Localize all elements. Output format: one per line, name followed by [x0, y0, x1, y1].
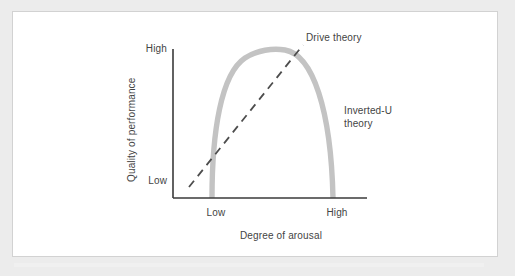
chart-area: High Low Low High Degree of arousal Qual… — [13, 12, 499, 258]
annotation-drive-theory: Drive theory — [306, 32, 362, 44]
screenshot-root: High Low Low High Degree of arousal Qual… — [0, 0, 515, 276]
panel-bottom-edge-artifact — [14, 263, 484, 267]
figure-panel: High Low Low High Degree of arousal Qual… — [12, 11, 498, 257]
annotation-inverted-u-line1: Inverted-U — [344, 104, 392, 117]
x-axis-tick-high: High — [315, 207, 359, 219]
y-axis-title: Quality of performance — [126, 78, 137, 182]
drive-theory-dashed-line — [189, 45, 303, 187]
annotation-inverted-u-line2: theory — [344, 117, 392, 130]
annotation-inverted-u-theory: Inverted-U theory — [344, 104, 392, 130]
x-axis-title: Degree of arousal — [207, 230, 355, 242]
x-axis-tick-low: Low — [194, 207, 238, 219]
chart-graphic — [13, 12, 499, 258]
inverted-u-curve — [212, 49, 333, 198]
y-axis-tick-high: High — [131, 43, 167, 55]
